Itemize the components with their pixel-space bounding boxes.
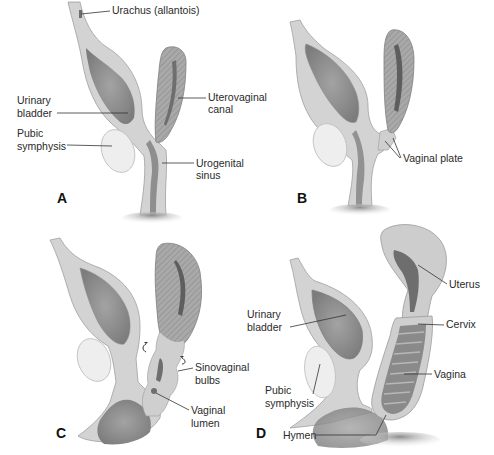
panel-d-artwork [290,225,446,448]
label-d-bladder-line1: Urinary [247,308,281,321]
panel-c-artwork [50,238,202,445]
label-vagina: Vagina [434,368,466,381]
panel-letter-a: A [57,190,67,206]
diagram-artwork [0,0,494,455]
label-sinovaginal-line1: Sinovaginal [195,361,249,374]
label-uterus: Uterus [449,278,480,291]
label-d-pubic-line2: symphysis [265,397,314,410]
label-a-pubic-line1: Pubic [17,127,43,140]
panel-letter-d: D [256,425,266,441]
label-vaginal-lumen-line2: lumen [191,417,220,430]
label-a-pubic-line2: symphysis [17,140,66,153]
label-d-pubic-line1: Pubic [265,384,291,397]
label-a-bladder-line1: Urinary [17,94,51,107]
label-vaginal-lumen-line1: Vaginal [191,404,225,417]
panel-letter-c: C [56,425,66,441]
panel-c-arrow-right [182,358,185,364]
panel-c-sinovaginal-bulbs [142,332,184,416]
label-urachus: Urachus (allantois) [112,4,200,17]
label-sinovaginal-line2: bulbs [195,374,220,387]
panel-a-uterovaginal-canal [155,47,186,143]
label-d-bladder-line2: bladder [247,321,282,334]
label-uterovaginal-line1: Uterovaginal [208,91,267,104]
label-urogenital-line2: sinus [196,169,221,182]
panel-b-artwork [290,20,414,216]
panel-c-arrow-left [143,344,146,352]
label-uterovaginal-line2: canal [208,103,233,116]
label-hymen: Hymen [283,429,316,442]
label-cervix: Cervix [446,318,476,331]
panel-letter-b: B [297,190,307,206]
label-vaginal-plate: Vaginal plate [403,152,463,165]
label-a-bladder-line2: bladder [17,107,52,120]
label-urogenital-line1: Urogenital [196,157,244,170]
